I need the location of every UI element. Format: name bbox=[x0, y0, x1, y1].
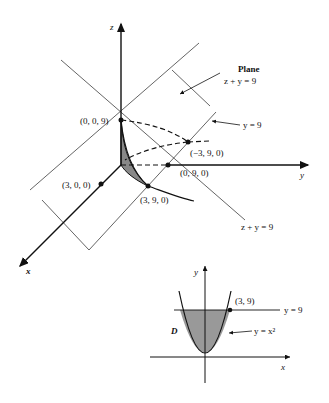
label-p090: (0, 9, 0) bbox=[180, 168, 209, 178]
inset-2d bbox=[150, 266, 290, 383]
label-p009: (0, 0, 9) bbox=[80, 116, 109, 126]
inset-point-label: (3, 9) bbox=[235, 296, 255, 306]
y9-pointer bbox=[212, 121, 240, 125]
x-axis-label: x bbox=[25, 266, 31, 276]
dashed-curves bbox=[121, 120, 210, 165]
points-3d bbox=[99, 118, 191, 189]
label-p390: (3, 9, 0) bbox=[140, 195, 169, 205]
inset-curve-label: y = x² bbox=[254, 326, 276, 336]
plane-eq: z + y = 9 bbox=[224, 76, 257, 86]
curve bbox=[121, 120, 194, 201]
z-axis-label: z bbox=[109, 22, 114, 32]
y9-label: y = 9 bbox=[243, 120, 262, 130]
label-p300: (3, 0, 0) bbox=[62, 180, 91, 190]
inset-y-label: y bbox=[193, 267, 198, 277]
plane-lines bbox=[30, 43, 245, 250]
label-pm390: (−3, 9, 0) bbox=[190, 148, 224, 158]
shaded-surface bbox=[121, 120, 148, 186]
inset-x-label: x bbox=[280, 362, 285, 372]
inset-y9-label: y = 9 bbox=[284, 305, 303, 315]
diagram: z y x (0, 0, 9) (−3, 9, 0) (0, 9, 0) (3,… bbox=[0, 0, 329, 403]
plane-title: Plane bbox=[238, 64, 260, 74]
zy9-label: z + y = 9 bbox=[241, 222, 274, 232]
region-d-label: D bbox=[170, 326, 178, 336]
y-axis-label: y bbox=[299, 170, 304, 180]
diagram-svg: z y x (0, 0, 9) (−3, 9, 0) (0, 9, 0) (3,… bbox=[0, 0, 329, 403]
